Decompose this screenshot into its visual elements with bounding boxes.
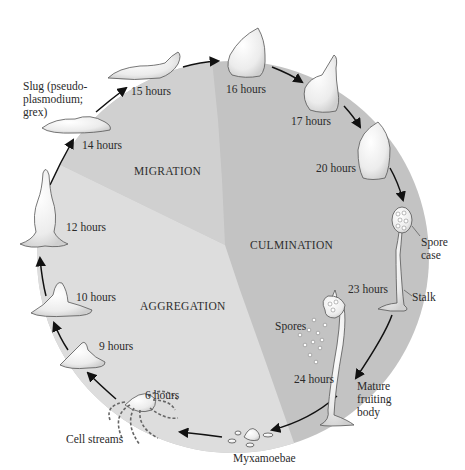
annotation-mature-fruiting-body: Mature fruiting body — [357, 380, 392, 420]
phase-label-aggregation: AGGREGATION — [140, 300, 226, 312]
life-cycle-diagram: MIGRATION CULMINATION AGGREGATION 6 hour… — [0, 0, 465, 470]
annotation-spore-case: Spore case — [421, 236, 448, 262]
time-label-23h: 23 hours — [348, 283, 388, 296]
annotation-myxamoebae: Myxamoebae — [233, 452, 296, 465]
annotation-slug: Slug (pseudo- plasmodium; grex) — [23, 80, 87, 120]
annotation-spores: Spores — [275, 320, 306, 333]
diagram-canvas — [0, 0, 465, 470]
time-label-17h: 17 hours — [291, 115, 331, 128]
time-label-14h: 14 hours — [82, 139, 122, 152]
time-label-10h: 10 hours — [76, 291, 116, 304]
time-label-20h: 20 hours — [316, 162, 356, 175]
time-label-6h: 6 hours — [145, 389, 179, 402]
time-label-9h: 9 hours — [99, 340, 133, 353]
time-label-16h: 16 hours — [226, 83, 266, 96]
stage-17h-illustration — [304, 55, 338, 112]
annotation-cell-streams: Cell streams — [66, 433, 123, 446]
phase-label-migration: MIGRATION — [134, 165, 201, 177]
time-label-15h: 15 hours — [131, 85, 171, 98]
annotation-stalk: Stalk — [412, 291, 436, 304]
time-label-12h: 12 hours — [66, 221, 106, 234]
stage-16h-illustration — [228, 28, 265, 77]
phase-label-culmination: CULMINATION — [250, 239, 333, 251]
time-label-24h: 24 hours — [294, 373, 334, 386]
